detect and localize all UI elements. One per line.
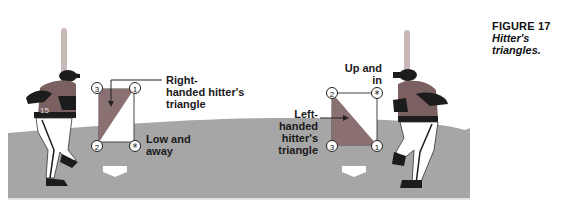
- jersey-number: 15: [40, 106, 49, 115]
- svg-text:1: 1: [133, 85, 138, 94]
- svg-text:*: *: [133, 142, 138, 153]
- svg-text:3: 3: [95, 85, 100, 94]
- figure-caption: FIGURE 17 Hitter's triangles.: [492, 20, 568, 56]
- figure-title: Hitter's triangles.: [492, 32, 568, 56]
- diagram-illustration: 15 3 1 2 *: [0, 0, 568, 212]
- low-and-away-label: Low and away: [146, 133, 191, 157]
- left-handed-triangle-label: Left- handed hitter's triangle: [262, 108, 318, 156]
- right-handed-triangle-label: Right- handed hitter's triangle: [166, 74, 244, 110]
- svg-text:*: *: [375, 89, 380, 100]
- figure-number: FIGURE 17: [492, 20, 568, 32]
- svg-text:1: 1: [375, 143, 380, 152]
- up-and-in-label: Up and in: [330, 62, 382, 86]
- svg-text:2: 2: [330, 90, 335, 99]
- svg-text:2: 2: [95, 143, 100, 152]
- hitters-triangles-figure: 15 3 1 2 *: [0, 0, 568, 212]
- svg-text:3: 3: [330, 143, 335, 152]
